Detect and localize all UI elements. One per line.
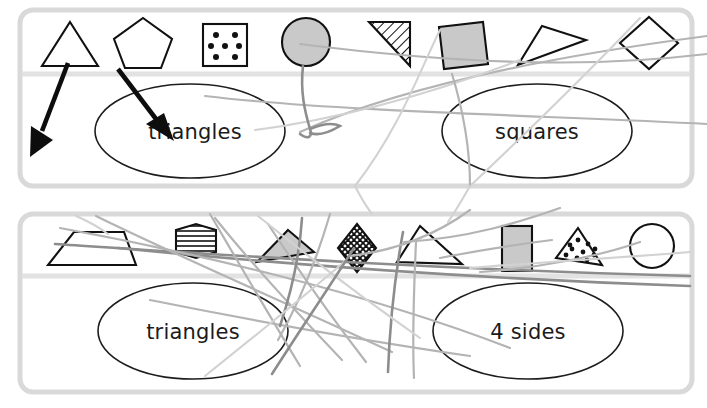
zone-bottom-left-label: triangles <box>146 320 240 344</box>
panel-top: triangles squares <box>20 10 707 186</box>
shape-square-dotted[interactable] <box>203 24 247 66</box>
activity-canvas: triangles squares <box>0 0 707 408</box>
zone-top-right-label: squares <box>495 120 579 144</box>
shape-square-gray-tilted[interactable] <box>439 22 488 69</box>
activity-svg: triangles squares <box>0 0 707 408</box>
shape-circle-gray[interactable] <box>282 18 330 66</box>
panel-bottom: triangles 4 sides <box>20 208 692 392</box>
zone-bottom-right-label: 4 sides <box>490 320 565 344</box>
